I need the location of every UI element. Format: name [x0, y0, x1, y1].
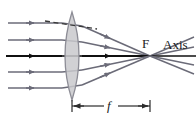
focal-point-label: F — [142, 37, 149, 50]
refracted-ray-4 — [82, 56, 150, 70]
incoming-rays-group — [6, 23, 62, 88]
refracted-ray-4-arrowhead — [100, 64, 110, 66]
past-focus-ray-4 — [150, 56, 194, 65]
refracted-ray-5-arrowhead — [100, 73, 110, 77]
refracted-ray-5 — [82, 56, 150, 85]
refracted-ray-1-arrowhead — [100, 34, 110, 39]
optics-ray-diagram-figure: F Axis f — [0, 0, 196, 118]
refracted-rays-group — [82, 26, 150, 85]
axis-label: Axis — [163, 38, 188, 51]
ray-diagram-canvas — [0, 0, 196, 118]
refracted-ray-2-arrowhead — [100, 46, 110, 48]
focal-length-label: f — [107, 99, 111, 112]
refracted-ray-2 — [82, 42, 150, 56]
past-focus-ray-5 — [150, 56, 194, 74]
focal-length-dimension-group — [72, 100, 150, 112]
refracted-ray-1 — [82, 26, 150, 56]
